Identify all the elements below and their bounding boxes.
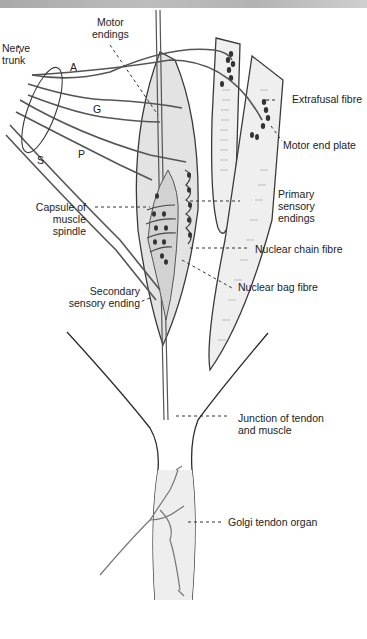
- label-motor-end-plate: Motor end plate: [283, 139, 356, 151]
- label-nerve-trunk: Nerve trunk: [2, 42, 30, 66]
- label-junction: Junction of tendon and muscle: [238, 412, 324, 436]
- label-motor-endings: Motor endings: [92, 16, 129, 40]
- label-primary-sensory: Primary sensory endings: [278, 188, 315, 224]
- label-golgi-tendon-organ: Golgi tendon organ: [228, 516, 317, 528]
- extrafusal-fibres: [209, 38, 283, 370]
- label-g: G: [93, 103, 101, 115]
- label-a: A: [70, 61, 77, 73]
- label-p: P: [78, 148, 85, 160]
- label-extrafusal-fibre: Extrafusal fibre: [292, 93, 362, 105]
- label-s: S: [37, 154, 44, 166]
- label-secondary-sensory: Secondary sensory ending: [40, 285, 140, 309]
- label-capsule: Capsule of muscle spindle: [30, 201, 86, 237]
- label-nuclear-chain: Nuclear chain fibre: [255, 243, 343, 255]
- label-nuclear-bag: Nuclear bag fibre: [238, 281, 318, 293]
